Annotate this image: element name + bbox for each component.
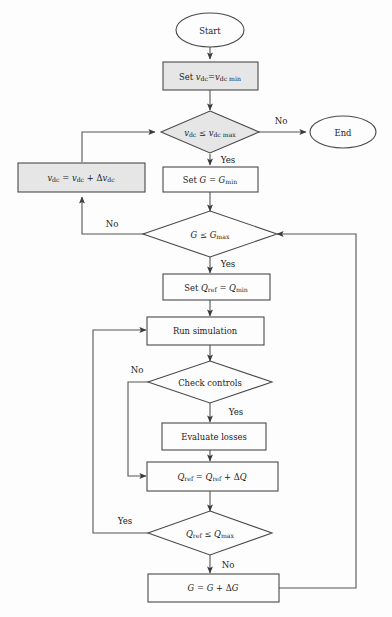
node-check-qref[interactable]: Qref ≤ Qmax	[148, 511, 272, 555]
edge-label-check-qref-no: No	[222, 560, 235, 570]
flowchart-svg: Start End Set vdc=vdc min vdc ≤ vdc max …	[0, 0, 392, 617]
node-layer: Start End Set vdc=vdc min vdc ≤ vdc max …	[18, 13, 376, 602]
edge-inc-g-to-check-g	[277, 234, 356, 588]
node-end[interactable]: End	[310, 116, 376, 148]
node-inc-g[interactable]: G = G + ΔG	[148, 574, 279, 602]
edge-inc-vdc-to-check-vdc	[82, 132, 155, 162]
eval-losses-label: Evaluate losses	[181, 432, 246, 442]
run-sim-label: Run simulation	[173, 326, 238, 336]
start-label: Start	[199, 26, 221, 36]
edge-check-qref-yes-to-run-sim	[93, 330, 161, 533]
inc-g-label: G = G + ΔG	[188, 583, 239, 593]
flowchart-canvas: Start End Set vdc=vdc min vdc ≤ vdc max …	[0, 0, 392, 617]
node-check-g[interactable]: G ≤ Gmax	[143, 211, 277, 257]
edge-label-check-vdc-yes: Yes	[220, 155, 235, 165]
node-check-controls[interactable]: Check controls	[148, 361, 272, 403]
edge-label-check-vdc-no: No	[275, 116, 288, 126]
node-set-vdc[interactable]: Set vdc=vdc min	[163, 62, 258, 90]
end-label: End	[335, 128, 353, 138]
node-eval-losses[interactable]: Evaluate losses	[162, 423, 266, 450]
check-controls-label: Check controls	[178, 378, 242, 388]
node-run-sim[interactable]: Run simulation	[147, 317, 264, 345]
edge-label-check-controls-yes: Yes	[228, 407, 243, 417]
node-inc-qref[interactable]: Qref = Qref + ΔQ	[147, 462, 278, 491]
node-check-vdc[interactable]: vdc ≤ vdc max	[161, 111, 259, 153]
edge-label-check-g-yes: Yes	[220, 259, 235, 269]
edge-label-check-g-no: No	[106, 219, 119, 229]
edge-label-check-qref-yes: Yes	[117, 516, 132, 526]
node-set-g[interactable]: Set G = Gmin	[163, 167, 258, 192]
node-inc-vdc[interactable]: vdc = vdc + Δvdc	[18, 163, 145, 192]
edge-check-g-no-to-inc-vdc	[82, 197, 162, 234]
node-set-qref[interactable]: Set Qref = Qmin	[163, 274, 270, 300]
edge-label-check-controls-no: No	[131, 365, 144, 375]
node-start[interactable]: Start	[176, 13, 244, 47]
